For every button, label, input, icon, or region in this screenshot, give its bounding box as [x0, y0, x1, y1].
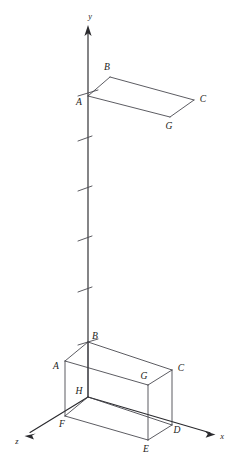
- box-vertex-label-C: C: [178, 362, 185, 373]
- top-vertex-label-G: G: [166, 120, 173, 131]
- axis-label-y: y: [87, 12, 92, 21]
- z-axis-arrowhead: [25, 433, 36, 439]
- x-axis-line: [88, 397, 210, 433]
- box-edge-B-C: [88, 342, 172, 370]
- y-axis-tick-3: [78, 186, 92, 191]
- box-vertex-label-B: B: [92, 330, 98, 341]
- box-vertex-labels: A B C G H F D E: [52, 330, 185, 454]
- box-vertex-label-H: H: [75, 385, 84, 396]
- x-axis-arrowhead: [204, 431, 215, 438]
- box-vertex-label-D: D: [173, 424, 181, 435]
- box-edge-D-H: [88, 397, 172, 425]
- top-vertex-label-A: A: [75, 96, 82, 107]
- top-parallelogram-group: [88, 77, 194, 117]
- axis-labels-group: y x z: [14, 12, 224, 446]
- box-vertex-label-F: F: [58, 418, 65, 429]
- box-vertex-label-E: E: [142, 443, 149, 454]
- box-vertex-label-G: G: [141, 370, 148, 381]
- top-edge-C-G: [170, 100, 194, 117]
- axis-label-z: z: [14, 437, 19, 446]
- top-parallelogram-labels: A B C G: [75, 61, 207, 131]
- box-edge-A-B: [65, 342, 88, 361]
- y-axis-tick-5: [78, 287, 92, 292]
- axes-group: [25, 25, 216, 440]
- top-vertex-label-B: B: [104, 61, 110, 72]
- y-axis-tick-4: [78, 236, 92, 241]
- box-edge-E-D: [148, 425, 172, 440]
- axis-label-x: x: [219, 432, 224, 441]
- box-edge-F-E: [65, 416, 148, 440]
- top-vertex-label-C: C: [200, 93, 207, 104]
- box-edge-C-G: [148, 370, 172, 385]
- top-edge-A-B: [88, 77, 110, 96]
- figure-svg: y x z A B C G A B C G H F D E: [0, 0, 243, 469]
- box-edge-H-F: [65, 397, 88, 416]
- geometry-figure: y x z A B C G A B C G H F D E: [0, 0, 243, 469]
- box-edge-G-A: [65, 361, 148, 385]
- box-vertex-label-A: A: [52, 360, 59, 371]
- top-edge-G-A: [88, 96, 170, 117]
- y-axis-tick-2: [78, 136, 92, 141]
- top-edge-B-C: [110, 77, 194, 100]
